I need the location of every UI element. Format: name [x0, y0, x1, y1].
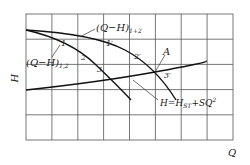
system-curve-label: H=HST+SQ2 — [159, 96, 216, 109]
y-axis-label: H — [9, 73, 20, 83]
point-2-label: 2 — [80, 53, 86, 62]
pump-curve-diagram: (Q−H)1+2 (Q−H)1,2 H=HST+SQ2 1 2 3 1′ 2′ … — [0, 0, 250, 165]
parallel-pump-label: (Q−H)1+2 — [96, 22, 142, 34]
single-pump-label: (Q−H)1,2 — [26, 57, 69, 69]
point-3-label: 3 — [97, 65, 102, 74]
x-axis-label: Q — [228, 147, 236, 158]
point-A-label: A — [162, 46, 170, 57]
point-1-label: 1 — [61, 39, 66, 48]
point-2prime-label: 2′ — [133, 52, 141, 61]
point-3prime-label: 3′ — [164, 71, 171, 80]
point-1prime-label: 1′ — [106, 39, 113, 48]
